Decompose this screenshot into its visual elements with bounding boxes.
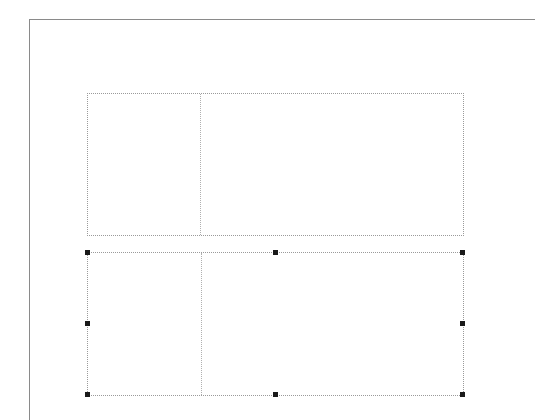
resize-handle-ne[interactable] [460,250,465,255]
resize-handle-w[interactable] [85,321,90,326]
bottom-table-frame[interactable] [87,252,464,396]
top-table-frame[interactable] [87,93,464,236]
column-divider[interactable] [201,253,202,395]
resize-handle-se[interactable] [460,392,465,397]
resize-handle-n[interactable] [273,250,278,255]
resize-handle-sw[interactable] [85,392,90,397]
resize-handle-nw[interactable] [85,250,90,255]
resize-handle-s[interactable] [273,392,278,397]
column-divider[interactable] [200,94,201,235]
resize-handle-e[interactable] [460,321,465,326]
